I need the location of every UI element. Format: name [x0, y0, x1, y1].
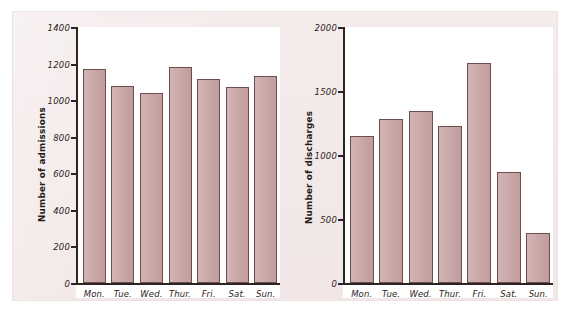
- y-axis-tick-label: 400: [34, 206, 70, 216]
- bar: [111, 86, 134, 283]
- y-axis-tick-label: 800: [34, 133, 70, 143]
- bar: [226, 87, 249, 283]
- y-axis-tick-label: 500: [301, 215, 337, 225]
- x-axis-line-discharges: [343, 283, 553, 285]
- bar: [409, 111, 433, 283]
- x-axis-category-label: Wed.: [137, 289, 166, 299]
- x-axis-category-label: Sun.: [251, 289, 280, 299]
- x-axis-category-label: Thur.: [435, 289, 464, 299]
- x-axis-category-label: Fri.: [194, 289, 223, 299]
- y-axis-tick-label: 1000: [301, 151, 337, 161]
- y-axis-tick-label: 1500: [301, 87, 337, 97]
- y-axis-tick-label: 0: [301, 279, 337, 289]
- bar: [140, 93, 163, 283]
- x-axis-category-label: Fri.: [465, 289, 494, 299]
- chart-discharges: Number of discharges 0500100015002000 Mo…: [285, 12, 557, 300]
- scanned-page: Number of admissions 0200400600800100012…: [0, 0, 569, 314]
- bar: [197, 79, 220, 283]
- x-axis-category-label: Wed.: [406, 289, 435, 299]
- x-axis-category-label: Mon.: [80, 289, 109, 299]
- bar: [438, 126, 462, 283]
- y-axis-tick-label: 1400: [34, 23, 70, 33]
- y-axis-tick-label: 600: [34, 169, 70, 179]
- bar: [467, 63, 491, 283]
- y-axis-tick-label: 2000: [301, 23, 337, 33]
- x-axis-category-label: Sat.: [223, 289, 252, 299]
- bar: [254, 76, 277, 283]
- x-axis-line-admissions: [76, 283, 280, 285]
- x-axis-category-label: Sun.: [524, 289, 553, 299]
- bar: [379, 119, 403, 283]
- bar: [83, 69, 106, 283]
- x-axis-category-label: Thur.: [166, 289, 195, 299]
- y-axis-line-admissions: [76, 27, 78, 285]
- bar: [169, 67, 192, 283]
- bar: [350, 136, 374, 283]
- x-axis-category-label: Tue.: [376, 289, 405, 299]
- x-axis-category-label: Tue.: [109, 289, 138, 299]
- y-axis-tick-label: 0: [34, 279, 70, 289]
- y-axis-label-admissions: Number of admissions: [37, 107, 47, 222]
- bar: [497, 172, 521, 283]
- y-axis-tick-label: 1000: [34, 96, 70, 106]
- y-axis-tick-label: 200: [34, 242, 70, 252]
- y-axis-line-discharges: [343, 27, 345, 285]
- y-axis-label-discharges: Number of discharges: [304, 111, 314, 224]
- bar: [526, 233, 550, 283]
- chart-admissions: Number of admissions 0200400600800100012…: [13, 12, 285, 300]
- y-axis-tick-label: 1200: [34, 60, 70, 70]
- x-axis-category-label: Mon.: [347, 289, 376, 299]
- x-axis-category-label: Sat.: [494, 289, 523, 299]
